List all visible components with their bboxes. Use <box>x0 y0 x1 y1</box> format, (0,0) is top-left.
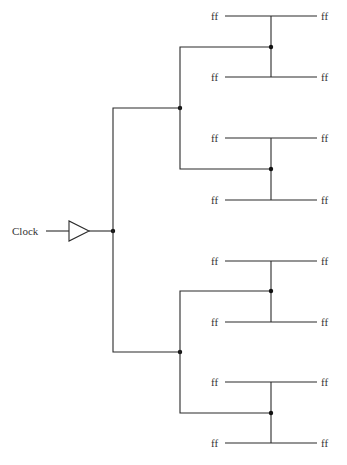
ff-label: ff <box>211 71 218 83</box>
ff-label: ff <box>211 255 218 267</box>
ff-label: ff <box>321 316 328 328</box>
level2-lower-branch <box>180 291 271 413</box>
ff-label: ff <box>321 194 328 206</box>
ff-label: ff <box>211 376 218 388</box>
clock-label: Clock <box>12 225 39 237</box>
ff-label: ff <box>321 132 328 144</box>
buffer-triangle-icon <box>69 221 89 241</box>
ff-label: ff <box>211 194 218 206</box>
ff-label: ff <box>211 10 218 22</box>
ff-label: ff <box>211 437 218 449</box>
ff-label: ff <box>321 437 328 449</box>
ff-label: ff <box>211 132 218 144</box>
clock-tree-diagram: Clock ff ff ff ff ff ff ff ff ff ff <box>0 0 347 465</box>
level2-upper-branch <box>180 47 271 169</box>
level1-trunk <box>113 108 180 352</box>
ff-label: ff <box>321 255 328 267</box>
ff-label: ff <box>321 71 328 83</box>
ff-label: ff <box>321 376 328 388</box>
ff-label: ff <box>321 10 328 22</box>
ff-label: ff <box>211 316 218 328</box>
